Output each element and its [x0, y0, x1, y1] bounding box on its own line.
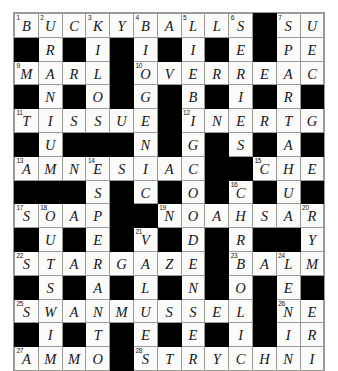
crossword-cell[interactable]: 27A	[15, 347, 39, 371]
crossword-cell[interactable]: A	[276, 61, 300, 85]
crossword-cell[interactable]: E	[300, 156, 324, 180]
crossword-cell[interactable]: L	[133, 275, 157, 299]
crossword-cell[interactable]: I	[86, 37, 110, 61]
crossword-cell[interactable]: M	[38, 347, 62, 371]
crossword-cell[interactable]: M	[62, 347, 86, 371]
crossword-cell[interactable]: R	[86, 251, 110, 275]
crossword-cell[interactable]: O	[86, 347, 110, 371]
crossword-cell[interactable]: S	[86, 109, 110, 133]
crossword-cell[interactable]: E	[276, 275, 300, 299]
crossword-cell[interactable]: R	[229, 61, 253, 85]
crossword-cell[interactable]: E	[86, 228, 110, 252]
crossword-cell[interactable]: G	[110, 251, 134, 275]
crossword-cell[interactable]: R	[229, 228, 253, 252]
crossword-cell[interactable]: A	[276, 204, 300, 228]
crossword-cell[interactable]: N	[276, 347, 300, 371]
crossword-cell[interactable]: A	[62, 299, 86, 323]
crossword-cell[interactable]: R	[62, 61, 86, 85]
crossword-cell[interactable]: I	[229, 85, 253, 109]
crossword-cell[interactable]: E	[133, 109, 157, 133]
crossword-cell[interactable]: 11T	[15, 109, 39, 133]
crossword-cell[interactable]: I	[229, 323, 253, 347]
crossword-cell[interactable]: G	[133, 85, 157, 109]
crossword-cell[interactable]: E	[181, 61, 205, 85]
crossword-cell[interactable]: 25S	[15, 299, 39, 323]
crossword-cell[interactable]: S	[252, 204, 276, 228]
crossword-cell[interactable]: H	[276, 156, 300, 180]
crossword-cell[interactable]: S	[110, 156, 134, 180]
crossword-cell[interactable]: 2U	[38, 14, 62, 38]
crossword-cell[interactable]: N	[86, 299, 110, 323]
crossword-cell[interactable]: 3K	[86, 14, 110, 38]
crossword-cell[interactable]: T	[86, 323, 110, 347]
crossword-cell[interactable]: L	[205, 14, 229, 38]
crossword-cell[interactable]: A	[86, 275, 110, 299]
crossword-cell[interactable]: O	[229, 275, 253, 299]
crossword-cell[interactable]: 20R	[300, 204, 324, 228]
crossword-cell[interactable]: U	[38, 132, 62, 156]
crossword-cell[interactable]: I	[133, 37, 157, 61]
crossword-cell[interactable]: 6S	[229, 14, 253, 38]
crossword-cell[interactable]: R	[300, 323, 324, 347]
crossword-cell[interactable]: 21V	[133, 228, 157, 252]
crossword-cell[interactable]: N	[38, 85, 62, 109]
crossword-cell[interactable]: 26N	[276, 299, 300, 323]
crossword-cell[interactable]: U	[38, 228, 62, 252]
crossword-cell[interactable]: 10O	[133, 61, 157, 85]
crossword-cell[interactable]: H	[229, 204, 253, 228]
crossword-cell[interactable]: Z	[157, 251, 181, 275]
crossword-cell[interactable]: O	[181, 204, 205, 228]
crossword-cell[interactable]: C	[181, 156, 205, 180]
crossword-cell[interactable]: 28S	[133, 347, 157, 371]
crossword-cell[interactable]: 1B	[15, 14, 39, 38]
crossword-cell[interactable]: S	[181, 299, 205, 323]
crossword-cell[interactable]: R	[205, 61, 229, 85]
crossword-cell[interactable]: C	[133, 180, 157, 204]
crossword-cell[interactable]: 19N	[157, 204, 181, 228]
crossword-cell[interactable]: R	[252, 109, 276, 133]
crossword-cell[interactable]: 17S	[15, 204, 39, 228]
crossword-cell[interactable]: I	[38, 323, 62, 347]
crossword-cell[interactable]: A	[205, 204, 229, 228]
crossword-cell[interactable]: 15C	[252, 156, 276, 180]
crossword-cell[interactable]: O	[181, 180, 205, 204]
crossword-cell[interactable]: G	[300, 109, 324, 133]
crossword-cell[interactable]: A	[252, 251, 276, 275]
crossword-cell[interactable]: H	[252, 347, 276, 371]
crossword-cell[interactable]: I	[38, 109, 62, 133]
crossword-cell[interactable]: C	[62, 14, 86, 38]
crossword-cell[interactable]: T	[157, 347, 181, 371]
crossword-cell[interactable]: E	[181, 323, 205, 347]
crossword-cell[interactable]: U	[110, 109, 134, 133]
crossword-cell[interactable]: E	[205, 299, 229, 323]
crossword-cell[interactable]: 9M	[15, 61, 39, 85]
crossword-cell[interactable]: U	[300, 14, 324, 38]
crossword-cell[interactable]: A	[157, 14, 181, 38]
crossword-cell[interactable]: O	[86, 85, 110, 109]
crossword-cell[interactable]: N	[62, 156, 86, 180]
crossword-cell[interactable]: A	[62, 251, 86, 275]
crossword-cell[interactable]: A	[38, 61, 62, 85]
crossword-cell[interactable]: S	[229, 132, 253, 156]
crossword-cell[interactable]: 24L	[276, 251, 300, 275]
crossword-cell[interactable]: R	[181, 347, 205, 371]
crossword-cell[interactable]: 18O	[38, 204, 62, 228]
crossword-cell[interactable]: Y	[110, 14, 134, 38]
crossword-cell[interactable]: A	[276, 132, 300, 156]
crossword-cell[interactable]: L	[229, 299, 253, 323]
crossword-cell[interactable]: L	[86, 61, 110, 85]
crossword-cell[interactable]: N	[181, 275, 205, 299]
crossword-cell[interactable]: U	[276, 180, 300, 204]
crossword-cell[interactable]: R	[276, 85, 300, 109]
crossword-cell[interactable]: D	[181, 228, 205, 252]
crossword-cell[interactable]: C	[300, 61, 324, 85]
crossword-cell[interactable]: S	[86, 180, 110, 204]
crossword-cell[interactable]: 23B	[229, 251, 253, 275]
crossword-cell[interactable]: N	[205, 109, 229, 133]
crossword-cell[interactable]: S	[62, 109, 86, 133]
crossword-cell[interactable]: A	[157, 156, 181, 180]
crossword-cell[interactable]: I	[276, 323, 300, 347]
crossword-cell[interactable]: 4B	[133, 14, 157, 38]
crossword-cell[interactable]: P	[276, 37, 300, 61]
crossword-cell[interactable]: E	[181, 251, 205, 275]
